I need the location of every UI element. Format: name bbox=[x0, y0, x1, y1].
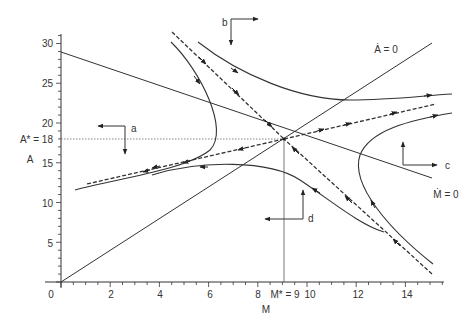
svg-text:d: d bbox=[308, 213, 314, 224]
y-tick-15: 15 bbox=[42, 158, 54, 169]
y-tick-astar: A* = 18 bbox=[20, 134, 54, 145]
trajectory-lower-left bbox=[152, 164, 384, 232]
m-dot-zero-isocline bbox=[61, 52, 432, 178]
x-tick-6: 6 bbox=[207, 289, 213, 300]
y-axis bbox=[56, 34, 61, 288]
svg-text:b: b bbox=[222, 17, 228, 28]
x-axis-label: M bbox=[262, 304, 270, 315]
y-tick-10: 10 bbox=[42, 198, 54, 209]
unstable-saddle-left bbox=[87, 139, 284, 184]
x-tick-0: 0 bbox=[48, 289, 54, 300]
y-tick-25: 25 bbox=[42, 78, 54, 89]
stable-saddle-upper bbox=[172, 32, 284, 139]
x-tick-12: 12 bbox=[352, 289, 364, 300]
region-a-indicator: a bbox=[98, 123, 137, 154]
x-axis bbox=[45, 282, 444, 287]
x-tick-10: 10 bbox=[304, 289, 316, 300]
x-tick-4: 4 bbox=[157, 289, 163, 300]
x-tick-14: 14 bbox=[401, 289, 413, 300]
phase-diagram: 30 25 20 A* = 18 15 10 5 A 0 2 4 6 8 M* … bbox=[0, 0, 474, 327]
x-tick-2: 2 bbox=[108, 289, 114, 300]
x-tick-mstar: M* = 9 bbox=[270, 289, 300, 300]
y-tick-30: 30 bbox=[42, 38, 54, 49]
region-b-indicator: b bbox=[222, 17, 258, 45]
a-dot-zero-isocline bbox=[61, 43, 432, 282]
stable-saddle-lower bbox=[284, 139, 432, 274]
y-axis-label: A bbox=[27, 154, 34, 165]
region-d-indicator: d bbox=[265, 190, 314, 224]
m-dot-zero-label: Ṁ = 0 bbox=[433, 188, 459, 200]
svg-text:a: a bbox=[131, 123, 137, 134]
y-tick-5: 5 bbox=[47, 238, 53, 249]
equilibrium-point bbox=[283, 138, 286, 141]
region-c-indicator: c bbox=[403, 142, 450, 171]
svg-text:c: c bbox=[445, 160, 450, 171]
a-dot-zero-label: Ȧ = 0 bbox=[374, 43, 398, 55]
trajectory-upper bbox=[198, 42, 452, 100]
y-tick-20: 20 bbox=[42, 118, 54, 129]
x-tick-8: 8 bbox=[255, 289, 261, 300]
